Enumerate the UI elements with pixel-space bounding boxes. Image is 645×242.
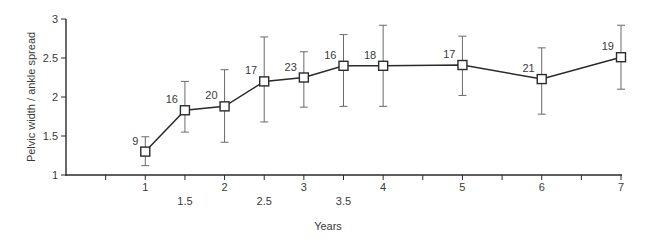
x-tick-label: 3: [301, 181, 307, 193]
data-point-marker: [260, 77, 269, 86]
x-axis: 12345671.52.53.5: [66, 175, 624, 207]
x-tick-label: 6: [539, 181, 545, 193]
x-tick-label-half: 2.5: [257, 195, 272, 207]
y-axis-title: Pelvic width / ankle spread: [25, 32, 37, 162]
data-point-marker: [458, 61, 467, 70]
data-point-marker: [617, 53, 626, 62]
x-tick-label: 5: [459, 181, 465, 193]
sample-size-label: 17: [443, 48, 455, 60]
x-tick-label: 2: [222, 181, 228, 193]
data-point-marker: [141, 147, 150, 156]
y-tick-label: 3: [52, 13, 58, 25]
y-tick-label: 2.5: [43, 52, 58, 64]
y-tick-label: 2: [52, 91, 58, 103]
data-point-marker: [180, 106, 189, 115]
y-tick-label: 1.5: [43, 130, 58, 142]
x-tick-label-half: 3.5: [336, 195, 351, 207]
sample-size-label: 21: [522, 62, 534, 74]
sample-size-label: 9: [132, 135, 138, 147]
sample-size-label: 16: [166, 93, 178, 105]
data-point-marker: [537, 75, 546, 84]
x-axis-title: Years: [314, 220, 342, 232]
x-tick-label-half: 1.5: [177, 195, 192, 207]
sample-size-label: 17: [245, 64, 257, 76]
x-tick-label: 4: [380, 181, 386, 193]
chart: 11.522.53 12345671.52.53.5 9162017231618…: [0, 0, 645, 242]
sample-size-label: 18: [364, 49, 376, 61]
sample-size-label: 19: [602, 40, 614, 52]
sample-size-label: 20: [205, 89, 217, 101]
sample-size-label: 23: [285, 61, 297, 73]
data-point-marker: [299, 73, 308, 82]
x-tick-label: 1: [142, 181, 148, 193]
data-point-marker: [339, 61, 348, 70]
y-tick-label: 1: [52, 169, 58, 181]
x-tick-label: 7: [618, 181, 624, 193]
data-point-marker: [379, 61, 388, 70]
data-point-marker: [220, 102, 229, 111]
sample-size-label: 16: [324, 49, 336, 61]
y-axis: 11.522.53: [43, 13, 66, 181]
